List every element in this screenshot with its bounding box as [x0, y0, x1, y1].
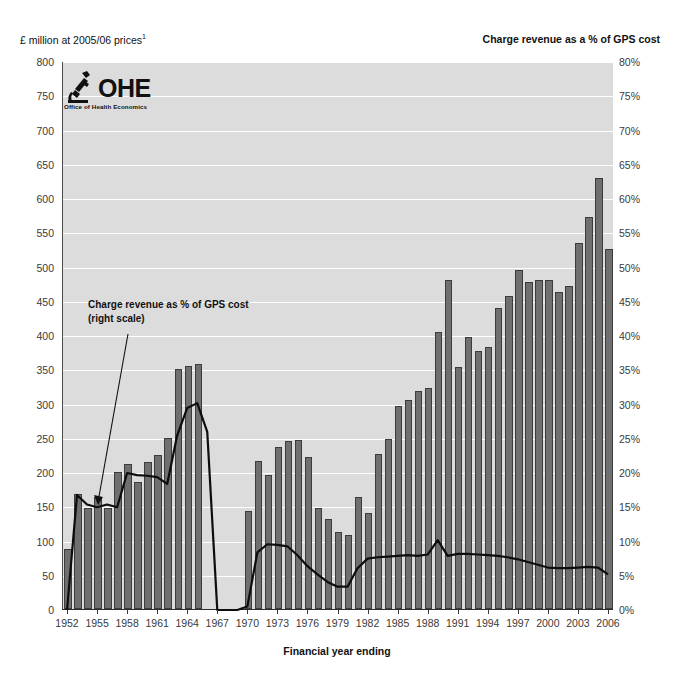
y-axis-right-tick-label: 20% [619, 467, 661, 479]
bar [435, 332, 442, 609]
bar [425, 388, 432, 609]
bar [565, 286, 572, 609]
x-axis-tick-mark [67, 610, 68, 614]
y-axis-left-tick-label: 500 [14, 262, 54, 274]
bar [195, 364, 202, 609]
bar [134, 482, 141, 609]
plot-area [62, 62, 613, 610]
bar [515, 270, 522, 609]
x-axis-tick-mark [548, 610, 549, 614]
y-axis-left-tick-label: 0 [14, 604, 54, 616]
ohe-logo: OHE Office of Health Economics [62, 70, 160, 116]
bar [275, 447, 282, 609]
bar [465, 337, 472, 609]
bar [175, 369, 182, 609]
bar [415, 391, 422, 610]
x-axis-tick-mark [458, 610, 459, 614]
x-axis-tick-mark [217, 610, 218, 614]
bar [445, 280, 452, 609]
y-axis-left-tick-label: 150 [14, 501, 54, 513]
y-axis-right-tick-label: 0% [619, 604, 661, 616]
bar [375, 454, 382, 609]
bar [325, 519, 332, 609]
gridline [63, 62, 613, 63]
bar [114, 472, 121, 609]
x-axis-title: Financial year ending [0, 645, 674, 657]
y-axis-left-tick-label: 700 [14, 125, 54, 137]
gridline [63, 268, 613, 269]
bar [405, 400, 412, 609]
x-axis-tick-mark [187, 610, 188, 614]
left-axis-footnote-marker: 1 [142, 33, 146, 40]
y-axis-left-tick-label: 750 [14, 90, 54, 102]
x-axis-tick-mark [307, 610, 308, 614]
gridline [63, 165, 613, 166]
y-axis-right-tick-label: 5% [619, 570, 661, 582]
bar [295, 440, 302, 609]
x-axis-tick-mark [578, 610, 579, 614]
bar [575, 243, 582, 609]
bar [395, 406, 402, 609]
x-axis-tick-mark [398, 610, 399, 614]
x-axis-tick-mark [488, 610, 489, 614]
annotation-line-2: (right scale) [88, 312, 249, 326]
x-axis-tick-mark [157, 610, 158, 614]
bar [164, 438, 171, 609]
bar [535, 280, 542, 609]
x-axis-tick-mark [97, 610, 98, 614]
x-axis-tick-mark [277, 610, 278, 614]
gridline [63, 199, 613, 200]
bar [104, 508, 111, 609]
left-axis-title: £ million at 2005/06 prices1 [20, 33, 146, 46]
y-axis-right-tick-label: 40% [619, 330, 661, 342]
y-axis-right-tick-label: 55% [619, 227, 661, 239]
gridline [63, 233, 613, 234]
bar [94, 497, 101, 609]
bar [525, 282, 532, 609]
bar [144, 462, 151, 609]
x-axis-tick-mark [247, 610, 248, 614]
bar [365, 513, 372, 609]
y-axis-right-tick-label: 65% [619, 159, 661, 171]
left-axis-title-text: £ million at 2005/06 prices [20, 34, 142, 46]
y-axis-right-tick-label: 45% [619, 296, 661, 308]
y-axis-right-tick-label: 35% [619, 364, 661, 376]
bar [505, 296, 512, 609]
chart-figure: £ million at 2005/06 prices1 Charge reve… [0, 0, 674, 678]
y-axis-left-tick-label: 800 [14, 56, 54, 68]
x-axis-tick-mark [428, 610, 429, 614]
y-axis-left-tick-label: 250 [14, 433, 54, 445]
y-axis-left-tick-label: 600 [14, 193, 54, 205]
ohe-logo-subtitle: Office of Health Economics [64, 103, 147, 110]
y-axis-left-tick-label: 550 [14, 227, 54, 239]
x-axis-tick-mark [338, 610, 339, 614]
y-axis-right-tick-label: 25% [619, 433, 661, 445]
bar [385, 439, 392, 609]
y-axis-right-tick-label: 10% [619, 536, 661, 548]
bar [585, 217, 592, 609]
bar [335, 532, 342, 609]
x-axis-tick-mark [608, 610, 609, 614]
y-axis-left-tick-label: 300 [14, 399, 54, 411]
x-axis-tick-mark [518, 610, 519, 614]
y-axis-left-tick-label: 200 [14, 467, 54, 479]
y-axis-left-tick-label: 350 [14, 364, 54, 376]
y-axis-left-tick-label: 400 [14, 330, 54, 342]
x-axis-tick-mark [127, 610, 128, 614]
y-axis-right-tick-label: 70% [619, 125, 661, 137]
bar [265, 475, 272, 609]
y-axis-left-tick-label: 650 [14, 159, 54, 171]
right-axis-title: Charge revenue as a % of GPS cost [483, 33, 660, 45]
bar [74, 494, 81, 609]
y-axis-right-tick-label: 75% [619, 90, 661, 102]
bar [545, 280, 552, 609]
y-axis-left-tick-label: 50 [14, 570, 54, 582]
x-axis-tick-label: 2006 [588, 617, 628, 629]
chart-annotation: Charge revenue as % of GPS cost (right s… [88, 298, 249, 326]
bar [345, 535, 352, 609]
bar [455, 367, 462, 609]
y-axis-left-tick-label: 450 [14, 296, 54, 308]
bar [84, 508, 91, 609]
y-axis-right-tick-label: 15% [619, 501, 661, 513]
bar [495, 308, 502, 609]
